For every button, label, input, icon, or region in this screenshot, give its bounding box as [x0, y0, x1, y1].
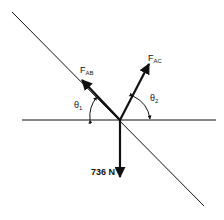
force-diagram: [0, 0, 224, 220]
fac-label: FAC: [148, 54, 162, 64]
weight-label: 736 N: [91, 168, 115, 177]
fab-label: FAB: [80, 66, 94, 76]
theta1-arc: [90, 97, 97, 120]
theta1-label: θ1: [74, 101, 82, 111]
fac-arrow: [120, 64, 149, 120]
fab-arrow: [82, 80, 120, 120]
theta2-arc: [133, 96, 150, 119]
theta2-label: θ2: [150, 94, 158, 104]
